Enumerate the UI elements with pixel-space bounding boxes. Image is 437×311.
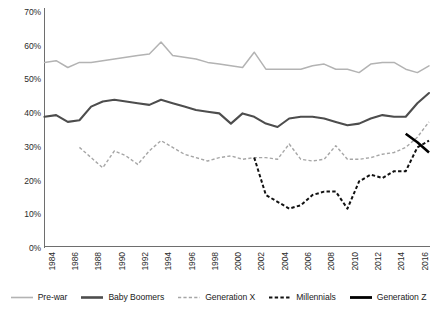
x-tick-label: 2002 bbox=[257, 252, 266, 271]
legend-label: Millennials bbox=[296, 292, 336, 302]
series-line-generation-z bbox=[406, 134, 429, 153]
x-tick-label: 1998 bbox=[211, 252, 220, 271]
x-tick-label: 2000 bbox=[234, 252, 243, 271]
legend-swatch-baby-boomers bbox=[81, 292, 103, 303]
x-tick-label: 1994 bbox=[164, 252, 173, 271]
legend-item-generation-z[interactable]: Generation Z bbox=[350, 292, 427, 303]
x-tick-label: 1988 bbox=[94, 252, 103, 271]
x-tick-label: 2004 bbox=[281, 252, 290, 271]
x-tick-label: 1992 bbox=[141, 252, 150, 271]
x-tick-label: 2006 bbox=[304, 252, 313, 271]
legend-item-generation-x[interactable]: Generation X bbox=[178, 292, 255, 303]
legend-label: Generation X bbox=[205, 292, 255, 302]
legend-item-baby-boomers[interactable]: Baby Boomers bbox=[81, 292, 164, 303]
series-line-millennials bbox=[254, 141, 429, 209]
series-line-pre-war bbox=[45, 42, 430, 73]
series-line-baby-boomers bbox=[45, 93, 430, 127]
x-tick-label: 1990 bbox=[118, 252, 127, 271]
x-tick-label: 2012 bbox=[374, 252, 383, 271]
x-tick-label: 2016 bbox=[421, 252, 430, 271]
legend-label: Baby Boomers bbox=[108, 292, 164, 302]
x-tick-label: 2008 bbox=[327, 252, 336, 271]
line-chart: 70% 60% 50% 40% 30% 20% 10% 0% 198419861… bbox=[0, 0, 437, 311]
x-tick-label: 1984 bbox=[48, 252, 57, 271]
x-tick-label: 1986 bbox=[71, 252, 80, 271]
legend-label: Pre-war bbox=[38, 292, 68, 302]
chart-legend: Pre-war Baby Boomers Generation X Millen… bbox=[0, 286, 437, 308]
legend-swatch-generation-z bbox=[350, 292, 372, 303]
legend-swatch-pre-war bbox=[11, 292, 33, 303]
legend-item-pre-war[interactable]: Pre-war bbox=[11, 292, 68, 303]
legend-label: Generation Z bbox=[377, 292, 427, 302]
x-tick-label: 2014 bbox=[397, 252, 406, 271]
legend-swatch-millennials bbox=[269, 292, 291, 303]
x-tick-label: 1996 bbox=[188, 252, 197, 271]
x-tick-label: 2010 bbox=[351, 252, 360, 271]
legend-swatch-generation-x bbox=[178, 292, 200, 303]
legend-item-millennials[interactable]: Millennials bbox=[269, 292, 336, 303]
